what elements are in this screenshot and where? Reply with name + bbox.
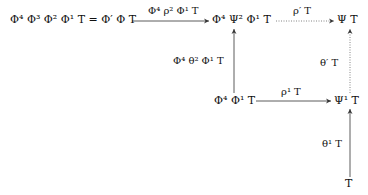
- label-theta-prime: θ′ T: [320, 57, 338, 69]
- label-rho-prime: ρ′ T: [293, 5, 311, 17]
- node-top-left: Φ⁴ Φ³ Φ² Φ¹ T = Φ′ Φ T: [10, 14, 136, 26]
- label-theta2: Φ⁴ θ² Φ¹ T: [173, 55, 224, 67]
- label-rho2: Φ⁴ ρ² Φ¹ T: [148, 5, 199, 17]
- diagram-edges: [0, 0, 368, 195]
- label-rho1: ρ¹ T: [281, 86, 301, 98]
- node-mid-right: Ψ¹ T: [334, 95, 359, 107]
- node-bottom-right: T: [345, 178, 352, 190]
- label-theta1: θ¹ T: [322, 138, 342, 150]
- node-top-right: Ψ T: [337, 14, 357, 26]
- node-top-middle: Φ⁴ Ψ² Φ¹ T: [212, 14, 271, 26]
- node-mid-middle: Φ⁴ Φ¹ T: [214, 95, 255, 107]
